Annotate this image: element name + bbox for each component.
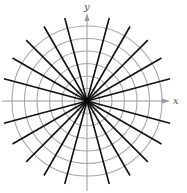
origin-point (84, 98, 90, 104)
x-axis-label: x (173, 95, 179, 106)
polar-grid-diagram: x y (0, 0, 187, 193)
x-axis-arrow-icon (162, 99, 170, 104)
y-axis-label: y (83, 1, 90, 12)
y-axis-arrow-icon (85, 13, 90, 21)
